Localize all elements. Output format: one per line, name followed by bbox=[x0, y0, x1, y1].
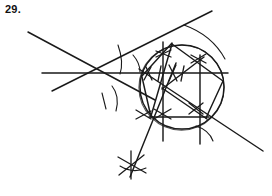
diagonal-down-right-line bbox=[28, 32, 155, 100]
arc-left-short bbox=[102, 93, 106, 109]
arc-left-outer-upper bbox=[118, 45, 122, 74]
diagonal-up-right-line bbox=[52, 11, 212, 91]
geometry-figure-canvas: 29. bbox=[0, 0, 272, 196]
congruence-tick-marks-group bbox=[118, 50, 206, 179]
arc-top-right-sweep bbox=[184, 25, 225, 59]
arc-left-outer-lower bbox=[112, 86, 117, 111]
geometric-construction-drawing bbox=[0, 0, 272, 196]
arc-lower-right-small bbox=[196, 126, 213, 141]
